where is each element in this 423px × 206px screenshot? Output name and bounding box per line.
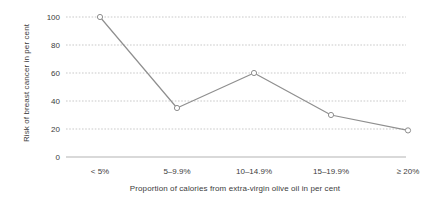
data-point-1	[174, 105, 179, 110]
line-chart: Risk of breast cancer in per cent 100 80…	[0, 0, 423, 206]
data-point-2	[251, 70, 256, 75]
x-tick-label-2: 10–14.9%	[216, 168, 292, 176]
x-tick-label-0: < 5%	[62, 168, 138, 176]
data-point-4	[405, 128, 410, 133]
x-axis-title: Proportion of calories from extra-virgin…	[60, 184, 410, 193]
data-point-0	[97, 14, 102, 19]
series-markers	[97, 14, 410, 133]
x-tick-label-1: 5–9.9%	[139, 168, 215, 176]
x-tick-label-3: 15–19.9%	[293, 168, 369, 176]
data-point-3	[328, 112, 333, 117]
x-tick-label-4: ≥ 20%	[370, 168, 423, 176]
